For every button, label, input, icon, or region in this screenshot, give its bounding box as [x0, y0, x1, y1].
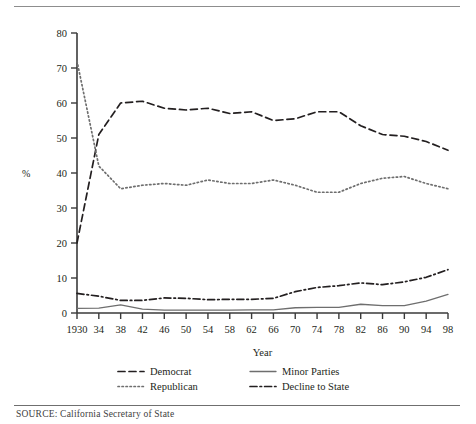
x-tick-label: 62	[246, 324, 257, 335]
series-line-minor-parties	[77, 294, 448, 310]
x-tick-label: 86	[377, 324, 388, 335]
x-tick-label: 46	[159, 324, 170, 335]
x-axis-title: Year	[253, 347, 273, 358]
x-tick-label: 74	[312, 324, 323, 335]
legend-label: Decline to State	[282, 381, 349, 392]
x-tick-label: 66	[268, 324, 279, 335]
x-tick-label: 82	[355, 324, 366, 335]
x-tick-label: 78	[334, 324, 345, 335]
x-tick-label: 58	[225, 324, 236, 335]
line-chart: 01020304050607080%1930343842465054586266…	[0, 0, 476, 400]
x-tick-label: 42	[137, 324, 148, 335]
series-line-decline-to-state	[77, 270, 448, 301]
x-tick-label: 90	[399, 324, 410, 335]
series-line-democrat	[77, 101, 448, 243]
y-tick-label: 0	[62, 308, 67, 319]
legend-label: Minor Parties	[282, 366, 339, 377]
y-tick-label: 70	[57, 63, 68, 74]
x-tick-label: 94	[421, 324, 432, 335]
series-line-republican	[77, 61, 448, 192]
y-tick-label: 10	[57, 273, 68, 284]
legend-label: Republican	[150, 381, 199, 392]
legend-item-democrat: Democrat	[118, 366, 191, 377]
x-tick-label: 54	[203, 324, 214, 335]
x-tick-label: 70	[290, 324, 301, 335]
y-tick-label: 50	[57, 133, 68, 144]
x-tick-label: 38	[115, 324, 126, 335]
y-tick-label: 20	[57, 238, 68, 249]
y-tick-label: 80	[57, 28, 68, 39]
legend-item-republican: Republican	[118, 381, 199, 392]
figure-page: 01020304050607080%1930343842465054586266…	[0, 0, 476, 424]
y-tick-label: 40	[57, 168, 68, 179]
legend-item-minor-parties: Minor Parties	[250, 366, 339, 377]
y-tick-label: 30	[57, 203, 68, 214]
legend-label: Democrat	[150, 366, 191, 377]
x-tick-label: 34	[94, 324, 105, 335]
source-note: SOURCE: California Secretary of State	[16, 409, 456, 423]
y-tick-label: 60	[57, 98, 68, 109]
legend-item-decline-to-state: Decline to State	[250, 381, 349, 392]
y-axis-title: %	[22, 168, 30, 179]
bottom-divider-rule	[14, 405, 460, 406]
x-tick-label: 98	[443, 324, 454, 335]
chart-svg: 01020304050607080%1930343842465054586266…	[0, 0, 476, 400]
x-tick-label: 1930	[67, 324, 88, 335]
x-tick-label: 50	[181, 324, 192, 335]
